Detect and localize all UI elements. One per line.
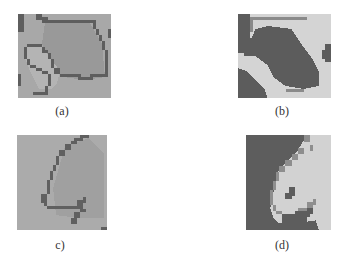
panel-d-caption: (d)	[262, 238, 302, 253]
panel-a-image	[18, 14, 111, 98]
panel-c-image	[17, 135, 107, 230]
panel-c-caption: c)	[40, 238, 80, 253]
panel-b-caption: (b)	[262, 104, 302, 119]
panel-a-caption: (a)	[42, 104, 82, 119]
panel-b-image	[237, 14, 331, 98]
panel-d-image	[246, 135, 331, 230]
